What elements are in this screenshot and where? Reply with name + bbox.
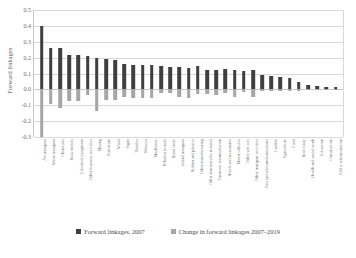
- bar-change-2007-2019: [132, 89, 136, 98]
- bar-change-2007-2019: [67, 89, 71, 101]
- x-axis-tick-label: Public administration: [339, 139, 343, 175]
- x-axis-label-slot: Textiles: [129, 138, 138, 220]
- legend-item-change-in-forward-linkages: Change in forward linkages 2007–2019: [171, 228, 280, 235]
- bar-series-container: [34, 10, 343, 137]
- bar-change-2007-2019: [95, 89, 99, 110]
- x-axis-label-slot: Education: [314, 138, 323, 220]
- bar-forward-linkages-2007: [113, 60, 117, 89]
- x-axis-label-slot: Water transport: [45, 138, 54, 220]
- bar-change-2007-2019: [58, 89, 62, 107]
- bar-forward-linkages-2007: [132, 65, 136, 90]
- y-axis-tick-label: 0.0: [24, 86, 32, 92]
- x-axis-label-slot: Motor vehicles: [230, 138, 239, 220]
- bar-forward-linkages-2007: [122, 64, 126, 89]
- bar-group: [147, 10, 156, 137]
- bar-group: [120, 10, 129, 137]
- bar-change-2007-2019: [187, 89, 191, 98]
- x-axis-label-slot: Rubber and plastics: [184, 138, 193, 220]
- bar-forward-linkages-2007: [187, 68, 191, 89]
- bar-group: [111, 10, 120, 137]
- x-axis-label-slot: Basic metals: [64, 138, 73, 220]
- bar-group: [46, 10, 55, 137]
- bar-group: [55, 10, 64, 137]
- bar-forward-linkages-2007: [242, 71, 246, 89]
- bar-change-2007-2019: [325, 89, 329, 90]
- y-axis-tick-label: 0.3: [24, 39, 32, 45]
- bar-group: [184, 10, 193, 137]
- legend-label: Change in forward linkages 2007–2019: [179, 228, 280, 235]
- x-axis-label-slot: Inland transport: [175, 138, 184, 220]
- bar-forward-linkages-2007: [288, 78, 292, 89]
- x-axis-label-slot: Machinery: [147, 138, 156, 220]
- x-axis-label-slot: Other transport activities: [249, 138, 258, 220]
- bar-group: [239, 10, 248, 137]
- bar-change-2007-2019: [315, 89, 319, 90]
- bar-group: [285, 10, 294, 137]
- bar-group: [331, 10, 340, 137]
- bar-group: [230, 10, 239, 137]
- x-axis-label-slot: Paper: [119, 138, 128, 220]
- bar-forward-linkages-2007: [269, 76, 273, 89]
- bar-change-2007-2019: [224, 89, 228, 92]
- bar-change-2007-2019: [159, 89, 163, 93]
- forward-linkages-bar-chart: Forward linkages 0.50.40.30.20.10.0-0.1-…: [0, 0, 356, 258]
- y-axis-tick-label: -0.2: [22, 118, 32, 124]
- y-axis-title-text: Forward linkages: [6, 47, 13, 93]
- bar-group: [175, 10, 184, 137]
- bar-forward-linkages-2007: [224, 69, 228, 90]
- bar-group: [37, 10, 46, 137]
- x-axis-label-slot: Health and social work: [304, 138, 313, 220]
- bar-group: [267, 10, 276, 137]
- bar-change-2007-2019: [297, 89, 301, 90]
- bar-group: [276, 10, 285, 137]
- bar-change-2007-2019: [141, 89, 145, 98]
- bar-forward-linkages-2007: [40, 26, 44, 90]
- bar-change-2007-2019: [178, 89, 182, 96]
- x-axis-label-slot: Financial intermediation: [212, 138, 221, 220]
- bar-group: [101, 10, 110, 137]
- bar-change-2007-2019: [49, 89, 53, 103]
- y-axis-tick-label: -0.1: [22, 102, 32, 108]
- y-axis-tick-label: 0.4: [24, 23, 32, 29]
- bar-forward-linkages-2007: [196, 66, 200, 90]
- bar-change-2007-2019: [334, 89, 338, 90]
- x-axis-label-slot: Other business activities: [82, 138, 91, 220]
- x-axis-label-slot: Wholesale trade: [156, 138, 165, 220]
- bar-change-2007-2019: [233, 89, 237, 96]
- bar-change-2007-2019: [168, 89, 172, 93]
- bar-change-2007-2019: [40, 89, 44, 137]
- chart-legend: Forward linkages, 2007 Change in forward…: [0, 228, 356, 235]
- x-axis-label-slot: Hotels and restaurants: [221, 138, 230, 220]
- bar-group: [83, 10, 92, 137]
- bar-change-2007-2019: [196, 89, 200, 94]
- x-axis-label-slot: Chemicals: [55, 138, 64, 220]
- x-axis-label-slot: Food: [286, 138, 295, 220]
- bar-group: [138, 10, 147, 137]
- legend-swatch-icon: [171, 229, 176, 234]
- x-axis-label-slot: Public administration: [332, 138, 341, 220]
- bar-change-2007-2019: [122, 89, 126, 96]
- bar-change-2007-2019: [306, 89, 310, 90]
- y-axis-tick-label: 0.5: [24, 7, 32, 13]
- x-axis-label-slot: Real estate: [295, 138, 304, 220]
- bar-change-2007-2019: [269, 89, 273, 91]
- bar-change-2007-2019: [86, 89, 90, 95]
- x-axis-label-slot: Other manufacturing: [193, 138, 202, 220]
- bar-forward-linkages-2007: [49, 48, 53, 89]
- bar-group: [166, 10, 175, 137]
- bar-group: [322, 10, 331, 137]
- x-axis-label-slot: Post and telecommunications: [258, 138, 267, 220]
- bar-group: [156, 10, 165, 137]
- bar-group: [294, 10, 303, 137]
- bar-change-2007-2019: [288, 89, 292, 91]
- bar-forward-linkages-2007: [251, 70, 255, 89]
- bar-change-2007-2019: [214, 89, 218, 95]
- bar-forward-linkages-2007: [178, 67, 182, 89]
- x-axis-label-slot: Wood: [110, 138, 119, 220]
- bar-group: [212, 10, 221, 137]
- x-axis-label-slot: Agriculture: [277, 138, 286, 220]
- legend-item-forward-linkages: Forward linkages, 2007: [76, 228, 145, 235]
- x-axis-category-labels: Air transportWater transportChemicalsBas…: [33, 138, 344, 220]
- x-axis-label-slot: Other non-metallic mineral: [203, 138, 212, 220]
- bar-change-2007-2019: [279, 89, 283, 91]
